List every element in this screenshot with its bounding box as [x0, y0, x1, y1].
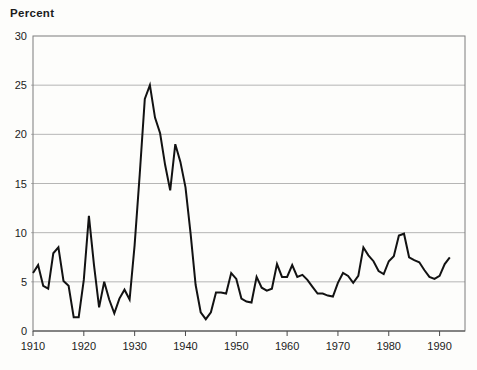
y-tick-label: 10 — [15, 227, 27, 239]
x-tick-label: 1960 — [275, 340, 299, 352]
y-tick-label: 25 — [15, 79, 27, 91]
chart-figure: Percent 05101520253019101920193019401950… — [0, 0, 477, 370]
data-line-unemployment-rate-percent — [33, 85, 450, 319]
y-tick-label: 5 — [21, 276, 27, 288]
x-tick-label: 1910 — [21, 340, 45, 352]
x-tick-label: 1930 — [122, 340, 146, 352]
x-tick-label: 1990 — [427, 340, 451, 352]
y-tick-label: 15 — [15, 178, 27, 190]
y-tick-label: 30 — [15, 30, 27, 42]
y-tick-label: 20 — [15, 128, 27, 140]
x-tick-label: 1970 — [326, 340, 350, 352]
x-tick-label: 1980 — [377, 340, 401, 352]
y-tick-label: 0 — [21, 325, 27, 337]
chart-canvas: 0510152025301910192019301940195019601970… — [0, 0, 477, 370]
x-tick-label: 1950 — [224, 340, 248, 352]
x-tick-label: 1940 — [173, 340, 197, 352]
x-tick-label: 1920 — [72, 340, 96, 352]
